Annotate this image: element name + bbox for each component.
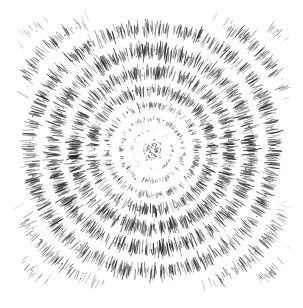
concentric-ring-drawing xyxy=(0,0,303,308)
artboard: Concentric Radial Hatch Rings A square i… xyxy=(0,0,303,308)
